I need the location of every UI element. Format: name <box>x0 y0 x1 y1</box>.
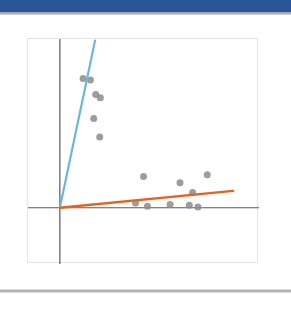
scatter-point <box>90 115 97 122</box>
scatter-point <box>167 201 174 208</box>
scatter-chart-figure[interactable] <box>27 38 258 263</box>
scatter-point <box>144 203 151 210</box>
scatter-point <box>204 171 211 178</box>
scatter-point <box>140 173 147 180</box>
scatter-point <box>186 202 193 209</box>
slide-canvas[interactable] <box>0 15 291 291</box>
scatter-point <box>96 134 103 141</box>
scatter-point <box>194 203 201 210</box>
top-blue-banner <box>0 0 291 12</box>
trend-line-blue-steep <box>60 41 95 208</box>
scatter-point <box>97 94 104 101</box>
scatter-group-cluster-upper <box>80 75 104 141</box>
bottom-area <box>0 293 291 315</box>
chart-svg <box>28 39 259 264</box>
scatter-point <box>177 179 184 186</box>
scatter-group-cluster-lower <box>132 171 211 210</box>
